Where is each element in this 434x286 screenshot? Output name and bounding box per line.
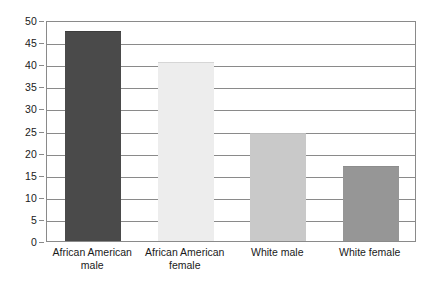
x-tick-label-line: African American bbox=[145, 246, 224, 258]
y-tick-mark bbox=[39, 43, 44, 44]
x-tick-label-line: White female bbox=[339, 246, 400, 258]
y-tick-label: 10 bbox=[25, 192, 37, 204]
y-tick-mark bbox=[39, 109, 44, 110]
x-tick-label: White male bbox=[231, 246, 324, 259]
y-tick-label: 50 bbox=[25, 15, 37, 27]
y-tick-label: 5 bbox=[31, 214, 37, 226]
x-tick-label-line: White male bbox=[251, 246, 304, 258]
bar bbox=[65, 31, 121, 241]
y-tick-label: 40 bbox=[25, 59, 37, 71]
plot-area bbox=[46, 21, 416, 242]
bar bbox=[158, 62, 214, 241]
bars-layer bbox=[47, 22, 415, 241]
y-tick-mark bbox=[39, 132, 44, 133]
bar bbox=[250, 133, 306, 241]
x-axis: African AmericanmaleAfrican Americanfema… bbox=[46, 246, 416, 280]
y-tick-label: 45 bbox=[25, 37, 37, 49]
x-tick-label-line: African American bbox=[53, 246, 132, 258]
y-tick-mark bbox=[39, 220, 44, 221]
bar-chart: 05101520253035404550 African Americanmal… bbox=[0, 0, 434, 286]
y-tick-label: 20 bbox=[25, 148, 37, 160]
y-tick-mark bbox=[39, 21, 44, 22]
x-tick-label: White female bbox=[324, 246, 417, 259]
y-tick-mark bbox=[39, 154, 44, 155]
x-tick-label: African Americanfemale bbox=[139, 246, 232, 271]
y-tick-mark bbox=[39, 242, 44, 243]
y-tick-mark bbox=[39, 198, 44, 199]
y-tick-mark bbox=[39, 87, 44, 88]
y-tick-label: 0 bbox=[31, 236, 37, 248]
x-tick-label-line: male bbox=[46, 259, 139, 272]
y-tick-label: 15 bbox=[25, 170, 37, 182]
y-tick-label: 30 bbox=[25, 103, 37, 115]
x-tick-label-line: female bbox=[139, 259, 232, 272]
y-tick-label: 25 bbox=[25, 126, 37, 138]
bar bbox=[343, 166, 399, 241]
y-axis: 05101520253035404550 bbox=[0, 0, 44, 286]
y-tick-mark bbox=[39, 176, 44, 177]
x-tick-label: African Americanmale bbox=[46, 246, 139, 271]
y-tick-label: 35 bbox=[25, 81, 37, 93]
y-tick-mark bbox=[39, 65, 44, 66]
